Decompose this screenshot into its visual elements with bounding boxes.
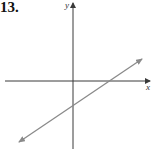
x-axis-label: x bbox=[146, 82, 150, 92]
coordinate-plane bbox=[0, 0, 154, 149]
plotted-line bbox=[19, 59, 142, 142]
y-axis-label: y bbox=[65, 0, 69, 10]
